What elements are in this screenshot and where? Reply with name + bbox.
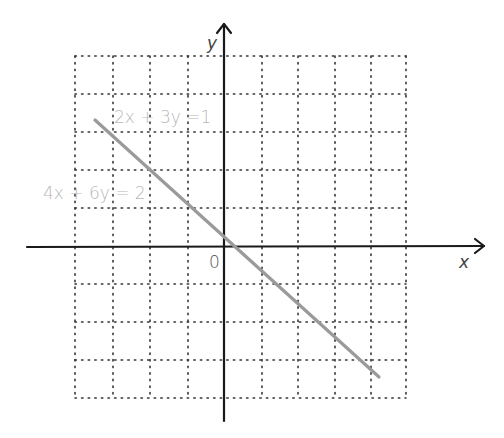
origin-label: 0	[209, 252, 220, 272]
coordinate-plane-diagram: y x 0 2x + 3y =1 4x + 6y = 2	[0, 0, 504, 438]
equation-line	[95, 120, 379, 377]
equation-label-2: 4x + 6y = 2	[43, 183, 146, 203]
y-axis-label: y	[206, 33, 218, 53]
x-axis	[27, 239, 484, 253]
x-axis-label: x	[458, 252, 470, 272]
equation-label-1: 2x + 3y =1	[114, 107, 211, 127]
y-axis	[217, 24, 231, 421]
